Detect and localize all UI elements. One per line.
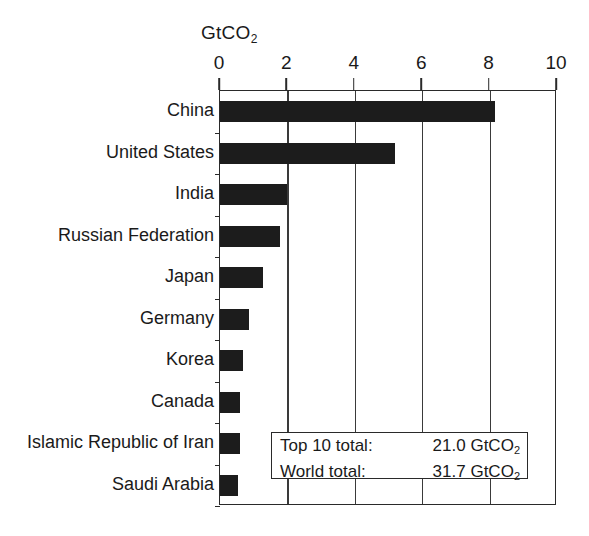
- axis-unit-subscript: 2: [250, 32, 257, 46]
- category-label: Islamic Republic of Iran: [27, 432, 214, 453]
- x-tick-label: 4: [349, 52, 360, 74]
- category-label: China: [167, 100, 214, 121]
- x-tick-mark: [218, 78, 220, 90]
- x-tick-label: 0: [214, 52, 225, 74]
- totals-annotation-box: Top 10 total: 21.0 GtCO2 World total: 31…: [271, 432, 528, 479]
- x-tick-label: 2: [281, 52, 292, 74]
- category-label: United States: [106, 142, 214, 163]
- annotation-label: World total:: [280, 461, 366, 482]
- y-tick-mark: [215, 506, 220, 507]
- x-axis-tick-labels: 0246810: [0, 52, 589, 76]
- category-label: Germany: [140, 308, 214, 329]
- x-tick-label: 10: [545, 52, 566, 74]
- annotation-value-subscript: 2: [514, 444, 520, 456]
- annotation-row: World total: 31.7 GtCO2: [280, 461, 520, 487]
- x-tick-mark: [353, 78, 355, 90]
- x-tick-label: 6: [416, 52, 427, 74]
- annotation-row: Top 10 total: 21.0 GtCO2: [280, 435, 520, 461]
- category-label: Korea: [166, 349, 214, 370]
- category-label: Canada: [151, 391, 214, 412]
- x-tick-mark: [420, 78, 422, 90]
- category-label: Saudi Arabia: [112, 474, 214, 495]
- bar-chart-figure: GtCO2 0246810 ChinaUnited StatesIndiaRus…: [0, 0, 589, 536]
- category-label: India: [175, 183, 214, 204]
- axis-unit-text: GtCO: [201, 22, 250, 43]
- annotation-value: 31.7 GtCO2: [433, 461, 520, 487]
- x-axis-tick-marks: [219, 78, 556, 90]
- annotation-value-text: 21.0 GtCO: [433, 436, 514, 455]
- x-tick-mark: [286, 78, 288, 90]
- annotation-label: Top 10 total:: [280, 435, 373, 456]
- category-label: Japan: [165, 266, 214, 287]
- x-tick-mark: [555, 78, 557, 90]
- axis-unit-label: GtCO2: [201, 22, 258, 46]
- x-tick-label: 8: [483, 52, 494, 74]
- annotation-value: 21.0 GtCO2: [433, 435, 520, 461]
- category-label: Russian Federation: [58, 225, 214, 246]
- annotation-value-text: 31.7 GtCO: [433, 462, 514, 481]
- annotation-value-subscript: 2: [514, 470, 520, 482]
- x-tick-mark: [488, 78, 490, 90]
